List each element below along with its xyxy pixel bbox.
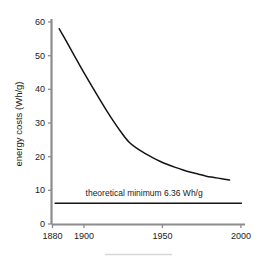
y-tick-label-50: 50 — [35, 51, 45, 61]
x-tick-label-1880: 1880 — [42, 231, 62, 241]
y-tick-label-0: 0 — [40, 219, 45, 229]
energy-costs-line-chart: energy costs (Wh/g) 60 50 40 30 20 10 0 … — [0, 0, 279, 264]
y-tick-label-40: 40 — [35, 84, 45, 94]
x-tick-label-2000: 2000 — [231, 231, 251, 241]
theoretical-minimum-label: theoretical minimum 6.36 Wh/g — [86, 188, 203, 198]
y-tick-label-60: 60 — [35, 17, 45, 27]
x-tick-label-1900: 1900 — [74, 231, 94, 241]
chart-figure: energy costs (Wh/g) 60 50 40 30 20 10 0 … — [0, 0, 279, 264]
y-tick-label-30: 30 — [35, 118, 45, 128]
y-tick-label-10: 10 — [35, 185, 45, 195]
y-tick-label-20: 20 — [35, 152, 45, 162]
y-axis-title: energy costs (Wh/g) — [13, 82, 24, 167]
x-tick-label-1950: 1950 — [152, 231, 172, 241]
energy-costs-curve — [59, 29, 229, 180]
